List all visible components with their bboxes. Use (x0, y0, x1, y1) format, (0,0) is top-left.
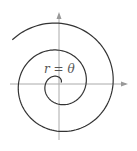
spiral-curve (12, 23, 113, 131)
x-axis-arrow-icon (121, 82, 128, 87)
y-axis-arrow-icon (57, 12, 62, 19)
spiral-diagram: r = θ (0, 0, 137, 151)
equation-label: r = θ (44, 62, 75, 76)
